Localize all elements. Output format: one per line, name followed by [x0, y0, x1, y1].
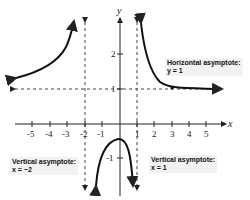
y-axis-label: y — [116, 5, 122, 16]
annotation-horizontal-asymptote: Horizontal asymptote: y = 1 — [165, 58, 243, 76]
point-3-1 — [170, 86, 173, 89]
svg-text:1: 1 — [135, 129, 140, 139]
chart-container: -5 -4 -3 -2 -1 1 2 3 4 5 2 1 -1 y x — [0, 0, 250, 200]
svg-text:-2: -2 — [80, 129, 88, 139]
annotation-line: Vertical asymptote: — [151, 156, 215, 164]
annotation-vertical-asymptote-left: Vertical asymptote: x = −2 — [10, 157, 78, 175]
annotation-vertical-asymptote-right: Vertical asymptote: x = 1 — [149, 155, 217, 173]
svg-text:1: 1 — [111, 84, 116, 94]
x-tick-labels: -5 -4 -3 -2 -1 1 2 3 4 5 — [27, 129, 209, 139]
curve-middle-branch — [96, 139, 133, 186]
svg-text:5: 5 — [204, 129, 209, 139]
svg-text:2: 2 — [111, 49, 116, 59]
svg-text:3: 3 — [170, 129, 175, 139]
svg-text:-1: -1 — [97, 129, 105, 139]
annotation-line: Vertical asymptote: — [12, 158, 76, 166]
annotation-line: y = 1 — [167, 67, 241, 75]
svg-text:4: 4 — [187, 129, 192, 139]
annotation-line: x = −2 — [12, 166, 76, 174]
x-axis-label: x — [227, 118, 233, 129]
svg-text:-5: -5 — [27, 129, 35, 139]
curve-right-branch — [141, 23, 222, 89]
annotation-line: Horizontal asymptote: — [167, 59, 241, 67]
svg-text:-4: -4 — [45, 129, 53, 139]
svg-text:2: 2 — [152, 129, 157, 139]
svg-text:-1: -1 — [106, 153, 114, 163]
svg-text:-3: -3 — [62, 129, 70, 139]
annotation-line: x = 1 — [151, 164, 215, 172]
curve-left-branch — [16, 21, 74, 78]
